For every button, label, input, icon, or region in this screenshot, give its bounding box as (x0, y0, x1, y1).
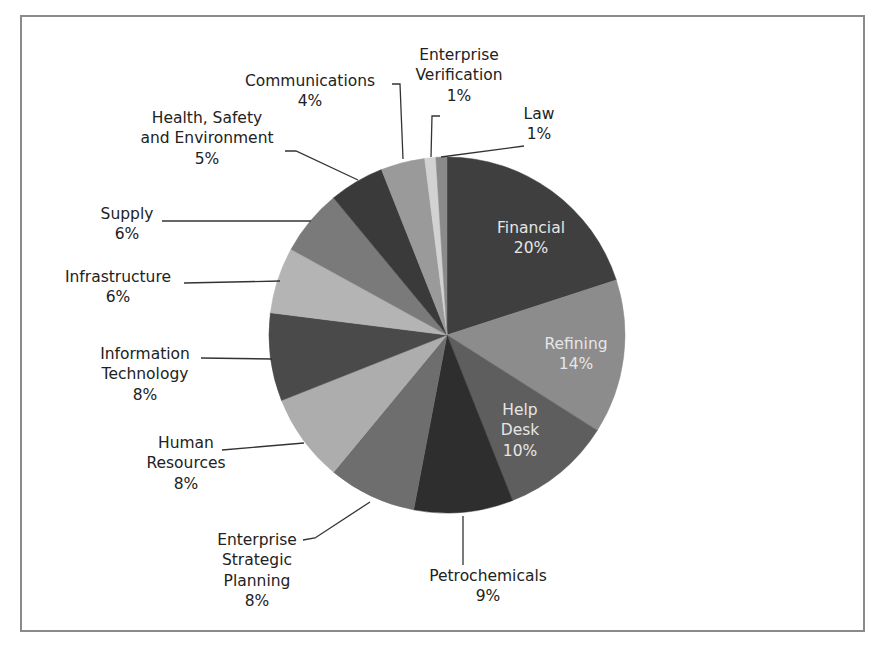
data-label-information-technology: InformationTechnology8% (100, 345, 190, 404)
leader-line-enterprise-verification (431, 116, 440, 157)
data-label-line: Financial (497, 219, 565, 237)
data-label-infrastructure: Infrastructure6% (65, 268, 171, 306)
leader-line-law (441, 146, 524, 157)
data-label-line: Enterprise (419, 46, 499, 64)
data-label-line: Petrochemicals (429, 567, 547, 585)
leader-line-information-technology (201, 358, 272, 359)
leader-line-infrastructure (184, 281, 280, 283)
data-label-line: 8% (245, 592, 270, 610)
data-label-line: Human (158, 434, 214, 452)
data-label-line: 10% (503, 442, 537, 460)
data-label-line: Strategic (222, 551, 292, 569)
data-label-supply: Supply6% (101, 205, 154, 243)
data-label-law: Law1% (524, 105, 555, 143)
data-label-health-safety-and-environment: Health, Safetyand Environment5% (140, 109, 273, 168)
leader-line-communications (392, 84, 403, 159)
data-label-line: 4% (298, 92, 323, 110)
data-label-line: Supply (101, 205, 154, 223)
leader-line-human-resources (222, 443, 304, 450)
data-label-line: Verification (415, 66, 502, 84)
data-label-line: 8% (133, 386, 158, 404)
data-label-enterprise-verification: EnterpriseVerification1% (415, 46, 502, 105)
data-label-line: Communications (245, 72, 375, 90)
leader-line-health-safety-environment (285, 151, 358, 180)
data-label-line: Technology (101, 365, 189, 383)
data-label-line: Desk (501, 421, 540, 439)
data-label-line: 1% (527, 125, 552, 143)
data-label-enterprise-strategic: EnterpriseStrategicPlanning8% (217, 531, 297, 610)
data-label-line: 9% (476, 587, 501, 605)
data-label-line: 6% (115, 225, 140, 243)
data-label-line: 14% (559, 355, 593, 373)
data-label-line: 8% (174, 475, 199, 493)
leader-line-enterprise-strategic-planning (303, 502, 370, 540)
data-label-line: Planning (224, 572, 291, 590)
data-label-help-desk: HelpDesk10% (501, 401, 540, 460)
data-label-line: 20% (514, 239, 548, 257)
data-label-petrochemicals: Petrochemicals9% (429, 567, 547, 605)
data-label-line: Resources (146, 454, 225, 472)
data-label-line: Law (524, 105, 555, 123)
data-label-human-resources: HumanResources8% (146, 434, 225, 493)
data-label-line: 1% (447, 87, 472, 105)
data-label-line: Health, Safety (152, 109, 262, 127)
data-label-line: Infrastructure (65, 268, 171, 286)
data-label-line: and Environment (140, 129, 273, 147)
data-label-line: Information (100, 345, 190, 363)
data-label-line: Enterprise (217, 531, 297, 549)
data-label-line: Refining (544, 335, 607, 353)
data-label-communications: Communications4% (245, 72, 375, 110)
pie-chart: Financial20%Refining14%HelpDesk10%Petroc… (0, 0, 884, 656)
data-label-line: 6% (106, 288, 131, 306)
data-label-line: 5% (195, 150, 220, 168)
data-label-line: Help (502, 401, 537, 419)
chart-canvas: Financial20%Refining14%HelpDesk10%Petroc… (0, 0, 884, 656)
